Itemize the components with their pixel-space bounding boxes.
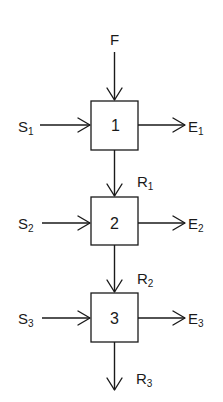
feed-label: F [110,31,119,48]
stage-1: 1 S1 E1 R1 [18,101,204,196]
stage-1-residue-arrow [107,150,122,196]
stage-3-residue-arrow [107,342,122,390]
stage-2-residue-label: R2 [137,270,154,289]
stage-1-input-arrow [40,118,90,132]
stage-3-input-label: S3 [18,310,34,329]
stage-1-input-label: S1 [18,118,34,137]
stage-3-number: 3 [110,310,119,327]
stage-2-output-label: E2 [188,215,204,234]
stage-3-output-arrow [138,311,185,325]
stage-2-residue-arrow [107,245,122,292]
stage-2-output-arrow [138,216,185,230]
stage-3-residue-label: R3 [136,370,153,389]
stage-3: 3 S3 E3 R3 [18,293,204,390]
stage-1-number: 1 [111,117,120,134]
stage-1-residue-label: R1 [137,173,154,192]
three-stage-flow-diagram: F 1 S1 E1 R1 2 S2 [0,0,223,402]
stage-3-output-label: E3 [188,310,204,329]
stage-2-input-arrow [42,216,90,230]
stage-1-output-arrow [138,118,185,132]
feed-arrow [107,52,122,100]
stage-2-input-label: S2 [18,215,34,234]
stage-3-input-arrow [42,311,90,325]
stage-2-number: 2 [110,215,119,232]
stage-1-output-label: E1 [188,118,204,137]
stage-2: 2 S2 E2 R2 [18,197,204,292]
